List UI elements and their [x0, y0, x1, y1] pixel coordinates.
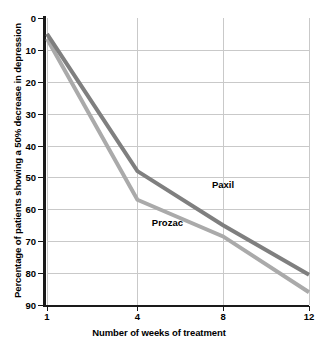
- y-tick-label: 30: [25, 108, 36, 119]
- x-tick-label: 1: [44, 311, 49, 322]
- line-chart: Percentage of patients showing a 50% dec…: [0, 0, 318, 342]
- x-axis-line: [43, 305, 309, 307]
- y-axis-title: Percentage of patients showing a 50% dec…: [12, 11, 23, 311]
- y-tick: [38, 18, 44, 19]
- x-axis-title: Number of weeks of treatment: [0, 327, 318, 338]
- series-label-prozac: Prozac: [152, 217, 183, 228]
- y-tick: [38, 177, 44, 178]
- y-tick: [38, 82, 44, 83]
- gridline-vertical: [309, 18, 310, 305]
- y-tick-label: 80: [25, 268, 36, 279]
- y-tick-label: 70: [25, 236, 36, 247]
- series-line-paxil: [47, 34, 309, 275]
- y-tick: [38, 50, 44, 51]
- y-axis-line: [43, 16, 46, 307]
- series-label-paxil: Paxil: [212, 178, 234, 189]
- y-tick: [38, 241, 44, 242]
- y-tick: [38, 273, 44, 274]
- y-tick: [38, 209, 44, 210]
- x-tick-label: 12: [304, 311, 315, 322]
- plot-area: 0102030405060708090 14812 PaxilProzac: [47, 18, 309, 305]
- y-tick: [38, 114, 44, 115]
- x-tick-label: 8: [220, 311, 225, 322]
- y-tick-label: 50: [25, 172, 36, 183]
- y-tick-label: 40: [25, 140, 36, 151]
- series-lines: [47, 18, 309, 305]
- y-tick-label: 90: [25, 300, 36, 311]
- y-tick-label: 20: [25, 76, 36, 87]
- y-tick-label: 10: [25, 44, 36, 55]
- y-tick-label: 60: [25, 204, 36, 215]
- y-tick: [38, 146, 44, 147]
- x-tick-label: 4: [135, 311, 140, 322]
- y-tick-label: 0: [31, 13, 36, 24]
- y-tick: [38, 305, 44, 306]
